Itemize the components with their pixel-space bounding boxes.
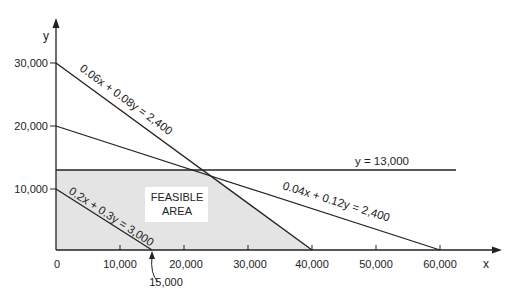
y-axis-arrow-icon (53, 18, 60, 28)
y-tick-30000: 30,000 (14, 57, 48, 69)
x-axis-arrow-icon (492, 247, 502, 254)
x-tick-30000: 30,000 (233, 258, 267, 270)
feasible-label-line1: FEASIBLE (151, 191, 204, 203)
x-tick-0: 0 (54, 258, 60, 270)
feasible-label-line2: AREA (162, 205, 193, 217)
y-tick-20000: 20,000 (14, 120, 48, 132)
annotation-arrowhead-icon (149, 251, 155, 259)
equation-label-1: 0.06x + 0.08y = 2,400 (78, 62, 175, 137)
equation-label-3: y = 13,000 (355, 155, 409, 167)
y-tick-10000: 10,000 (14, 183, 48, 195)
x-tick-40000: 40,000 (295, 258, 329, 270)
x-tick-20000: 20,000 (169, 258, 203, 270)
x-annotation-15000: 15,000 (149, 276, 183, 288)
x-axis-label: x (483, 257, 489, 271)
x-tick-50000: 50,000 (359, 258, 393, 270)
x-tick-60000: 60,000 (423, 258, 457, 270)
y-axis-label: y (43, 29, 49, 43)
linear-programming-diagram: 30,000 20,000 10,000 y 0 10,000 20,000 3… (0, 0, 514, 295)
x-tick-10000: 10,000 (103, 258, 137, 270)
